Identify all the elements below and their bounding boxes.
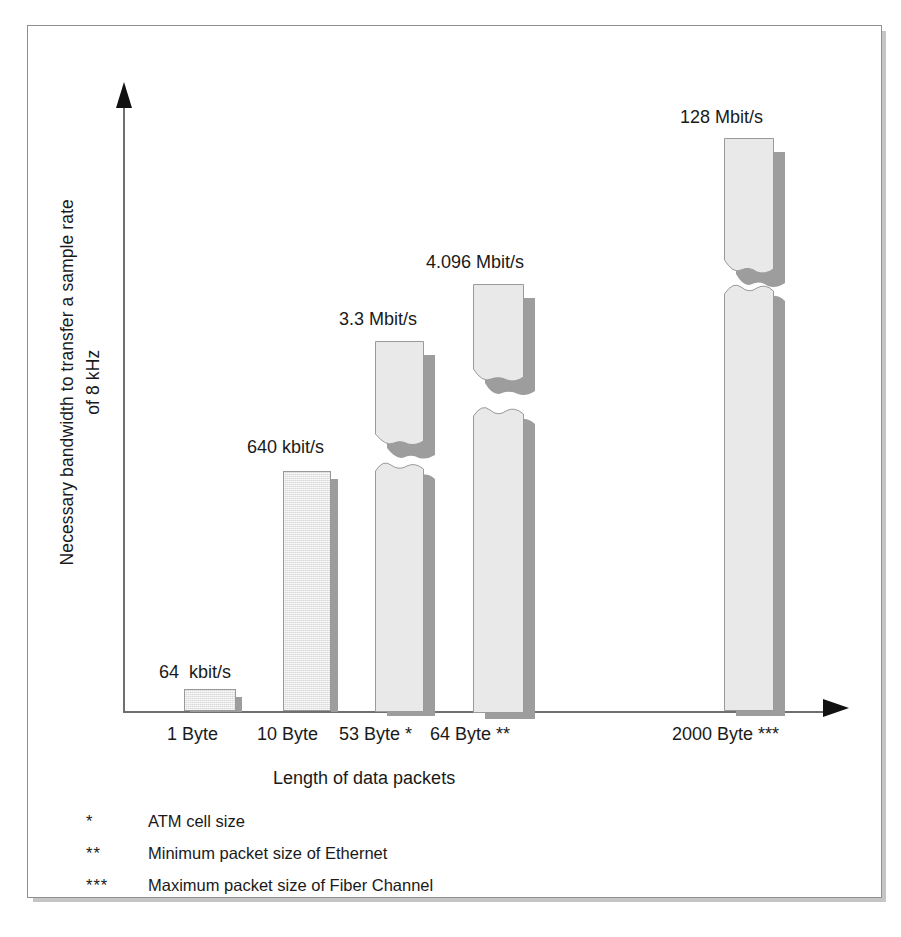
footnote-list: * ATM cell size ** Minimum packet size o… xyxy=(86,812,433,908)
bar-category-label-1: 1 Byte xyxy=(167,724,218,745)
bar-value-label-2: 640 kbit/s xyxy=(247,437,324,458)
bar-4-lower-segment xyxy=(473,401,535,721)
bar-value-label-1: 64 kbit/s xyxy=(159,662,231,683)
footnote-item: ** Minimum packet size of Ethernet xyxy=(86,844,433,863)
bar-4-upper-segment xyxy=(473,284,535,404)
y-axis-title: Necessary bandwidth to transfer a sample… xyxy=(54,102,107,662)
bar-3-upper-segment xyxy=(375,341,437,465)
bar-shadow-2 xyxy=(331,479,338,712)
footnote-text: Minimum packet size of Ethernet xyxy=(148,844,387,863)
footnote-marker: *** xyxy=(86,876,148,895)
bar-value-label-4: 4.096 Mbit/s xyxy=(426,252,524,273)
footnote-text: ATM cell size xyxy=(148,812,245,831)
bar-5-upper-segment xyxy=(724,138,786,298)
bar-category-label-4: 64 Byte ** xyxy=(430,724,510,745)
bar-1 xyxy=(184,689,236,711)
footnote-item: * ATM cell size xyxy=(86,812,433,831)
footnote-text: Maximum packet size of Fiber Channel xyxy=(148,876,433,895)
figure-frame: Necessary bandwidth to transfer a sample… xyxy=(27,25,882,898)
chart-plot-area: Necessary bandwidth to transfer a sample… xyxy=(28,26,883,899)
footnote-marker: * xyxy=(86,812,148,831)
bar-category-label-2: 10 Byte xyxy=(257,724,318,745)
bar-5-lower-segment xyxy=(724,277,786,717)
bar-value-label-3: 3.3 Mbit/s xyxy=(339,309,417,330)
bar-value-label-5: 128 Mbit/s xyxy=(680,107,763,128)
bar-category-label-5: 2000 Byte *** xyxy=(672,724,779,745)
bar-3-lower-segment xyxy=(375,458,437,718)
y-axis-arrow-icon xyxy=(116,82,132,108)
x-axis-arrow-icon xyxy=(823,699,849,717)
x-axis-title: Length of data packets xyxy=(273,768,455,789)
footnote-item: *** Maximum packet size of Fiber Channel xyxy=(86,876,433,895)
bar-category-label-3: 53 Byte * xyxy=(339,724,412,745)
y-axis-line xyxy=(123,98,125,712)
footnote-marker: ** xyxy=(86,844,148,863)
bar-2 xyxy=(283,471,331,711)
